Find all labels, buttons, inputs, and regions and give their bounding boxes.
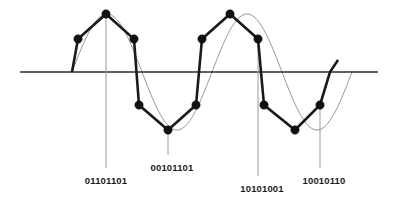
sample-dot bbox=[130, 35, 138, 43]
sampled-waveform-figure: 01101101 00101101 10101001 10010110 bbox=[0, 0, 394, 208]
binary-code-label-3: 10101001 bbox=[240, 184, 283, 194]
sample-dot bbox=[198, 35, 206, 43]
sample-dot bbox=[316, 101, 324, 109]
binary-code-label-1: 01101101 bbox=[85, 176, 127, 186]
sample-dot bbox=[192, 101, 200, 109]
sample-dot bbox=[74, 35, 82, 43]
sample-dot bbox=[226, 10, 234, 18]
sample-dot bbox=[135, 101, 143, 109]
sample-dot bbox=[291, 126, 299, 134]
sample-dot bbox=[102, 10, 110, 18]
sample-dot bbox=[254, 35, 262, 43]
sample-dot bbox=[260, 101, 268, 109]
binary-code-label-4: 10010110 bbox=[303, 176, 346, 186]
sample-dot bbox=[164, 126, 172, 134]
binary-code-label-2: 00101101 bbox=[151, 163, 194, 173]
